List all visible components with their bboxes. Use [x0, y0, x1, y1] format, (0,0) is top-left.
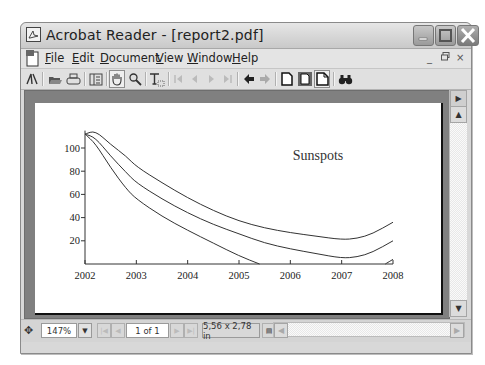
- next-page-icon[interactable]: [203, 71, 219, 87]
- go-back-icon[interactable]: [241, 71, 257, 87]
- toolbar-separator: [42, 72, 44, 86]
- menu-document-accel: D: [100, 51, 109, 65]
- toolbar: [21, 69, 471, 90]
- x-tick-label: 2002: [75, 270, 96, 281]
- hand-tool-icon[interactable]: [109, 70, 125, 88]
- toolbar-separator: [237, 72, 239, 86]
- window-title: Acrobat Reader - [report2.pdf]: [46, 27, 264, 43]
- menu-view-rest: iew: [164, 51, 184, 65]
- mdi-restore-button[interactable]: [441, 52, 450, 63]
- fit-width-icon[interactable]: [314, 70, 330, 88]
- menu-view[interactable]: View: [156, 51, 183, 65]
- first-page-icon[interactable]: [171, 71, 187, 87]
- menu-file[interactable]: File: [45, 51, 64, 65]
- print-icon[interactable]: [65, 71, 81, 87]
- status-first-page-button[interactable]: |◀: [97, 323, 111, 338]
- text-select-icon[interactable]: [149, 71, 165, 87]
- scroll-left-button[interactable]: ◀: [274, 323, 288, 338]
- chart-title: Sunspots: [293, 148, 344, 163]
- fit-page-icon[interactable]: [297, 71, 313, 87]
- go-forward-icon[interactable]: [257, 71, 273, 87]
- toolbar-separator: [168, 72, 170, 86]
- status-previous-page-button[interactable]: ◀: [111, 323, 125, 338]
- series-line-upper: [85, 132, 393, 239]
- menu-help-accel: H: [232, 51, 241, 65]
- y-tick-label: 40: [70, 212, 81, 223]
- find-icon[interactable]: [337, 71, 353, 87]
- menu-window[interactable]: Window: [187, 51, 232, 65]
- y-tick-label: 20: [70, 235, 81, 246]
- y-tick-label: 60: [70, 189, 81, 200]
- acrobat-app-icon: [26, 27, 41, 42]
- menu-bar: File Edit Document View Window Help _ ×: [21, 49, 471, 69]
- x-tick-label: 2004: [177, 270, 199, 281]
- y-tick-label: 100: [64, 143, 80, 154]
- page-number-field[interactable]: 1 of 1: [126, 323, 169, 338]
- toolbar-separator: [84, 72, 86, 86]
- toolbar-separator: [333, 72, 335, 86]
- x-tick-label: 2005: [229, 270, 250, 281]
- toolbar-separator: [145, 72, 147, 86]
- zoom-field[interactable]: 147%: [41, 323, 77, 338]
- menu-window-accel: W: [187, 51, 198, 65]
- scroll-down-button[interactable]: ▼: [450, 300, 467, 317]
- scroll-up-button[interactable]: ▲: [450, 106, 467, 123]
- zoom-dropdown-button[interactable]: ▼: [78, 323, 92, 338]
- status-next-page-button[interactable]: ▶: [170, 323, 184, 338]
- menu-file-rest: ile: [51, 51, 64, 65]
- minimize-button[interactable]: [413, 25, 434, 46]
- menu-help[interactable]: Help: [232, 51, 258, 65]
- menu-edit[interactable]: Edit: [72, 51, 94, 65]
- move-icon[interactable]: ✥: [24, 324, 36, 338]
- toolbar-separator: [275, 72, 277, 86]
- previous-page-icon[interactable]: [187, 71, 203, 87]
- x-tick-label: 2008: [383, 270, 404, 281]
- acrobat-logo-icon[interactable]: [24, 71, 40, 87]
- mdi-close-button[interactable]: ×: [456, 52, 464, 63]
- status-last-page-button[interactable]: ▶|: [184, 323, 198, 338]
- document-icon[interactable]: [26, 50, 40, 67]
- x-tick-label: 2006: [280, 270, 301, 281]
- acrobat-reader-window: Acrobat Reader - [report2.pdf] File Edit…: [20, 22, 472, 354]
- horizontal-scrollbar[interactable]: ◀ ▶: [273, 322, 465, 337]
- actual-size-icon[interactable]: [279, 71, 295, 87]
- maximize-button[interactable]: [435, 25, 456, 46]
- close-button[interactable]: [457, 25, 479, 46]
- last-page-icon[interactable]: [219, 71, 235, 87]
- menu-view-accel: V: [156, 51, 164, 65]
- zoom-tool-icon[interactable]: [127, 71, 143, 87]
- y-tick-label: 80: [70, 166, 81, 177]
- show-hide-navigation-icon[interactable]: [88, 71, 104, 87]
- series-line-lower: [85, 134, 260, 264]
- title-bar[interactable]: Acrobat Reader - [report2.pdf]: [21, 23, 471, 49]
- menu-document[interactable]: Document: [100, 51, 160, 65]
- mdi-minimize-button[interactable]: _: [427, 52, 432, 63]
- series-line-lower-tail: [385, 259, 393, 264]
- vertical-scrollbar[interactable]: ▶ ▲ ▼: [449, 90, 467, 317]
- page-size-display: 5,56 x 2,78 in: [202, 323, 260, 338]
- pane-toggle-button[interactable]: ▶: [450, 90, 467, 107]
- x-tick-label: 2003: [126, 270, 147, 281]
- sunspots-chart: 200220032004200520062007200820406080100S…: [35, 103, 441, 313]
- menu-edit-rest: dit: [79, 51, 94, 65]
- menu-help-rest: elp: [241, 51, 259, 65]
- pdf-page: 200220032004200520062007200820406080100S…: [35, 103, 443, 315]
- open-icon[interactable]: [47, 71, 63, 87]
- toolbar-separator: [106, 72, 108, 86]
- document-view[interactable]: 200220032004200520062007200820406080100S…: [24, 90, 450, 319]
- menu-document-rest: ocument: [109, 51, 160, 65]
- scroll-right-button[interactable]: ▶: [450, 323, 464, 338]
- menu-window-rest: indow: [198, 51, 232, 65]
- x-tick-label: 2007: [331, 270, 352, 281]
